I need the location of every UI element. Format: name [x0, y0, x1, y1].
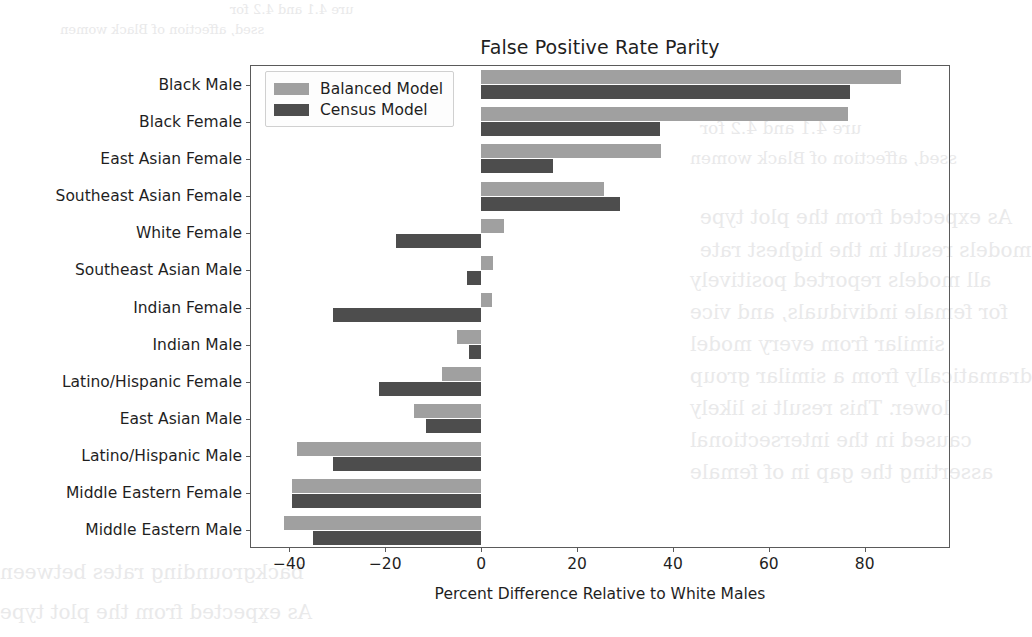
y-tick-mark: [246, 159, 251, 160]
bar: [333, 457, 482, 471]
x-tick-label: −20: [369, 555, 402, 573]
x-axis-title: Percent Difference Relative to White Mal…: [250, 585, 950, 603]
y-tick-label: Indian Female: [133, 299, 242, 317]
bar: [396, 234, 481, 248]
y-tick-mark: [246, 85, 251, 86]
x-tick-label: 40: [663, 555, 683, 573]
x-tick-label: 60: [759, 555, 779, 573]
y-tick-mark: [246, 122, 251, 123]
y-tick-mark: [246, 308, 251, 309]
x-tick-label: −40: [273, 555, 306, 573]
bar: [481, 144, 661, 158]
chart-title: False Positive Rate Parity: [250, 36, 950, 58]
legend-item-census-model: Census Model: [274, 99, 443, 120]
y-tick-mark: [246, 233, 251, 234]
x-tick-label: 0: [476, 555, 486, 573]
bar: [284, 516, 482, 530]
bar: [333, 308, 482, 322]
bar: [379, 382, 481, 396]
y-tick-mark: [246, 493, 251, 494]
legend-label-balanced-model: Balanced Model: [320, 80, 443, 98]
y-tick-label: Middle Eastern Male: [85, 521, 242, 539]
x-tick-label: 80: [855, 555, 875, 573]
x-tick-mark: [289, 547, 290, 552]
bars-layer: [251, 66, 949, 547]
bar: [469, 345, 481, 359]
bar: [481, 107, 848, 121]
y-tick-label: Black Female: [139, 113, 242, 131]
bar: [481, 293, 492, 307]
y-tick-mark: [246, 456, 251, 457]
y-tick-label: White Female: [136, 224, 242, 242]
bar: [292, 479, 481, 493]
bar: [292, 494, 481, 508]
bar: [481, 197, 620, 211]
y-tick-mark: [246, 530, 251, 531]
bar: [457, 330, 481, 344]
bar: [426, 419, 481, 433]
bar: [467, 271, 481, 285]
x-tick-mark: [769, 547, 770, 552]
bar: [481, 70, 901, 84]
x-tick-mark: [385, 547, 386, 552]
legend-swatch-census-model: [274, 104, 309, 116]
y-tick-mark: [246, 345, 251, 346]
y-tick-label: Indian Male: [152, 336, 242, 354]
bar: [414, 404, 481, 418]
bar: [313, 531, 481, 545]
plot-area: Black MaleBlack FemaleEast Asian FemaleS…: [250, 65, 950, 548]
bar: [481, 256, 493, 270]
bar: [297, 442, 482, 456]
bar: [481, 219, 504, 233]
y-tick-mark: [246, 382, 251, 383]
y-tick-label: Southeast Asian Female: [56, 187, 242, 205]
y-tick-label: East Asian Female: [100, 150, 242, 168]
legend-item-balanced-model: Balanced Model: [274, 78, 443, 99]
legend-label-census-model: Census Model: [320, 101, 428, 119]
x-tick-mark: [865, 547, 866, 552]
bar: [481, 122, 660, 136]
y-tick-label: East Asian Male: [120, 410, 242, 428]
y-tick-mark: [246, 270, 251, 271]
y-tick-label: Latino/Hispanic Male: [81, 447, 242, 465]
legend-swatch-balanced-model: [274, 83, 309, 95]
x-tick-mark: [481, 547, 482, 552]
bar: [481, 85, 850, 99]
y-tick-mark: [246, 419, 251, 420]
bar: [442, 367, 481, 381]
y-tick-label: Latino/Hispanic Female: [62, 373, 242, 391]
x-tick-label: 20: [567, 555, 587, 573]
chart-legend: Balanced Model Census Model: [265, 71, 454, 127]
x-tick-mark: [673, 547, 674, 552]
x-tick-mark: [577, 547, 578, 552]
y-tick-label: Black Male: [158, 76, 242, 94]
bar: [481, 159, 552, 173]
bar: [481, 182, 604, 196]
y-tick-label: Middle Eastern Female: [66, 484, 242, 502]
y-tick-label: Southeast Asian Male: [75, 261, 242, 279]
y-tick-mark: [246, 196, 251, 197]
